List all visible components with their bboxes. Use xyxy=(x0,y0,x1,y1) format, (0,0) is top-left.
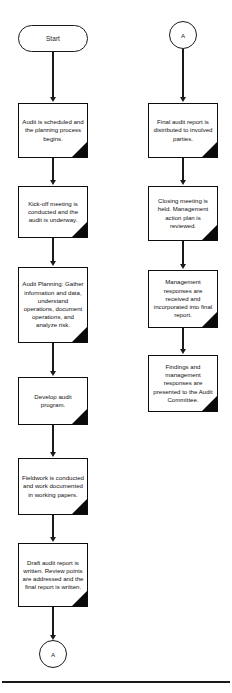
process-box-develop-audit-program-label: Develop audit program. xyxy=(19,393,87,409)
arrowhead-step1-to-step2 xyxy=(50,180,56,185)
connector-rstep1-to-rstep2 xyxy=(182,158,183,181)
arrowhead-rstep2-to-rstep3 xyxy=(180,264,186,269)
arrowhead-step5-to-step6 xyxy=(50,537,56,542)
connector-circle-a-top[interactable]: A xyxy=(169,21,197,49)
process-box-management-responses[interactable]: Management responses are received and in… xyxy=(148,270,218,328)
flowchart-canvas: Start Audit is scheduled and the plannin… xyxy=(0,0,232,693)
process-box-audit-scheduled-label: Audit is scheduled and the planning proc… xyxy=(19,118,87,143)
process-box-final-report-distributed[interactable]: Final audit report is distributed to inv… xyxy=(148,103,218,158)
folded-corner-icon xyxy=(202,142,217,157)
connector-step1-to-step2 xyxy=(52,158,53,181)
process-box-findings-presented[interactable]: Findings and management responses are pr… xyxy=(148,355,218,412)
bottom-divider xyxy=(2,681,230,683)
connector-a-to-rstep1 xyxy=(182,49,183,98)
connector-rstep3-to-rstep4 xyxy=(182,328,183,350)
process-box-audit-planning-label: Audit Planning: Gather information and d… xyxy=(19,280,87,329)
arrowhead-step3-to-step4 xyxy=(50,371,56,376)
process-box-management-responses-label: Management responses are received and in… xyxy=(149,278,217,319)
arrowhead-rstep3-to-rstep4 xyxy=(180,349,186,354)
process-box-develop-audit-program[interactable]: Develop audit program. xyxy=(18,377,88,425)
connector-step4-to-step5 xyxy=(52,425,53,453)
folded-corner-icon xyxy=(72,499,87,514)
start-terminator-label: Start xyxy=(46,35,60,42)
arrowhead-step2-to-step3 xyxy=(50,261,56,266)
connector-circle-a-bottom-label: A xyxy=(51,651,55,658)
arrowhead-a-to-rstep1 xyxy=(180,97,186,102)
process-box-fieldwork[interactable]: Fieldwork is conducted and work document… xyxy=(18,458,88,515)
process-box-findings-presented-label: Findings and management responses are pr… xyxy=(149,363,217,404)
arrowhead-rstep1-to-rstep2 xyxy=(180,180,186,185)
connector-step2-to-step3 xyxy=(52,238,53,262)
process-box-audit-scheduled[interactable]: Audit is scheduled and the planning proc… xyxy=(18,103,88,158)
folded-corner-icon xyxy=(72,409,87,424)
process-box-fieldwork-label: Fieldwork is conducted and work document… xyxy=(19,474,87,499)
process-box-final-report-distributed-label: Final audit report is distributed to inv… xyxy=(149,118,217,143)
process-box-draft-audit-report[interactable]: Draft audit report is written. Review po… xyxy=(18,543,88,607)
process-box-kickoff-meeting[interactable]: Kick-off meeting is conducted and the au… xyxy=(18,186,88,238)
start-terminator[interactable]: Start xyxy=(18,25,88,52)
connector-step6-to-connector-a xyxy=(52,607,53,636)
process-box-closing-meeting[interactable]: Closing meeting is held. Management acti… xyxy=(148,186,218,241)
process-box-audit-planning[interactable]: Audit Planning: Gather information and d… xyxy=(18,267,88,343)
folded-corner-icon xyxy=(72,142,87,157)
arrowhead-step4-to-step5 xyxy=(50,452,56,457)
arrowhead-start-to-step1 xyxy=(50,97,56,102)
connector-step5-to-step6 xyxy=(52,515,53,538)
connector-rstep2-to-rstep3 xyxy=(182,241,183,265)
connector-circle-a-top-label: A xyxy=(181,32,185,39)
process-box-kickoff-meeting-label: Kick-off meeting is conducted and the au… xyxy=(19,200,87,225)
connector-step3-to-step4 xyxy=(52,343,53,372)
connector-circle-a-bottom[interactable]: A xyxy=(39,640,67,668)
connector-start-to-step1 xyxy=(52,52,53,98)
folded-corner-icon xyxy=(72,591,87,606)
process-box-draft-audit-report-label: Draft audit report is written. Review po… xyxy=(19,559,87,592)
process-box-closing-meeting-label: Closing meeting is held. Management acti… xyxy=(149,197,217,230)
